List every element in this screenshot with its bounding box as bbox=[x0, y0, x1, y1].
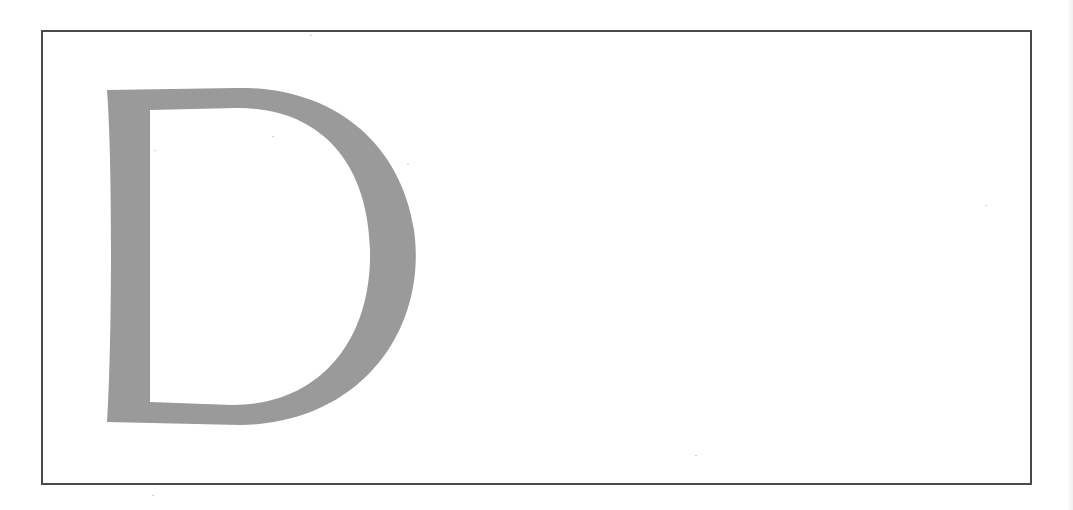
dropcap-letter-d bbox=[0, 0, 1073, 510]
scan-speck bbox=[407, 164, 409, 165]
scan-speck bbox=[272, 136, 274, 137]
scan-speck bbox=[152, 495, 154, 496]
scan-speck bbox=[985, 205, 987, 206]
scan-speck bbox=[154, 150, 156, 151]
scan-speck bbox=[310, 35, 312, 36]
scan-speck bbox=[695, 455, 697, 456]
letter-d-glyph bbox=[107, 88, 416, 425]
